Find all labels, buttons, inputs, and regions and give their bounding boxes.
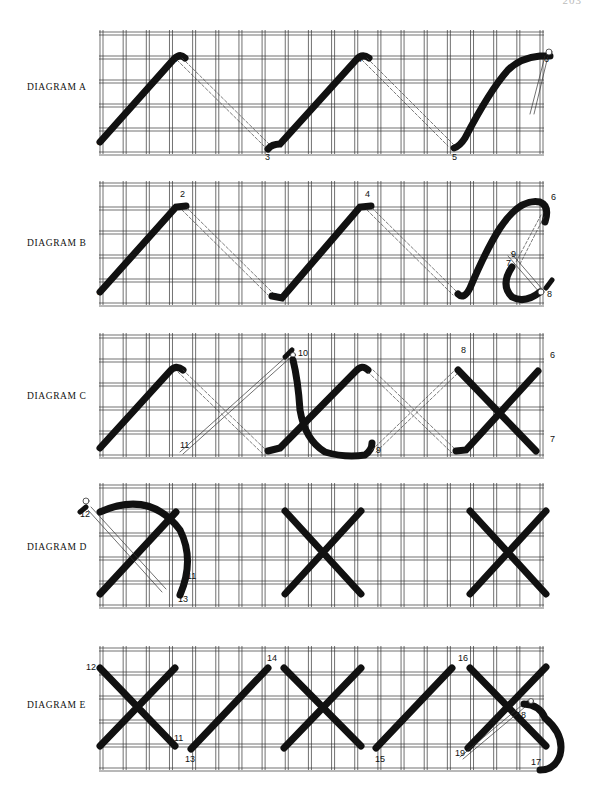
- step-number: 11: [180, 440, 189, 450]
- step-number: 3: [265, 152, 270, 162]
- stitch-diagrams: 1234561234567891011986712111312111314151…: [0, 0, 596, 792]
- step-number: 13: [178, 594, 188, 604]
- step-number: 2: [180, 189, 185, 199]
- step-number: 18: [516, 710, 526, 720]
- canvas-grid-a: [99, 30, 544, 155]
- step-number: 5: [452, 152, 457, 162]
- diagram-b-stitches: [100, 202, 552, 300]
- canvas-grids: [99, 30, 544, 771]
- step-number: 15: [375, 754, 385, 764]
- step-number: 7: [550, 434, 555, 444]
- diagram-a-stitches: [100, 49, 552, 149]
- step-number: 12: [86, 662, 96, 672]
- step-number: 13: [185, 754, 195, 764]
- step-number: 17: [531, 757, 541, 767]
- step-number: 1: [97, 137, 102, 147]
- step-number: 2: [172, 54, 177, 64]
- step-number: 7: [506, 258, 511, 268]
- step-number: 3: [272, 291, 277, 301]
- step-number: 6: [550, 350, 555, 360]
- step-number: 8: [547, 289, 552, 299]
- step-number: 1: [97, 287, 102, 297]
- step-number: 4: [365, 189, 370, 199]
- step-number: 5: [460, 291, 465, 301]
- step-number: 12: [80, 509, 90, 519]
- step-number: 19: [455, 748, 465, 758]
- diagram-c-stitches: [100, 350, 538, 456]
- step-number: 6: [544, 54, 549, 64]
- step-number: 10: [298, 348, 308, 358]
- step-number: 11: [174, 733, 183, 743]
- step-number: 9: [376, 445, 381, 455]
- canvas-grid-b: [99, 181, 544, 306]
- step-number: 8: [461, 345, 466, 355]
- step-number: 4: [357, 54, 362, 64]
- step-number: 6: [551, 192, 556, 202]
- step-number: 14: [267, 653, 277, 663]
- diagram-d-stitches: [80, 498, 546, 595]
- step-number: 16: [458, 653, 468, 663]
- step-number: 11: [187, 571, 196, 581]
- step-number: 9: [511, 249, 516, 259]
